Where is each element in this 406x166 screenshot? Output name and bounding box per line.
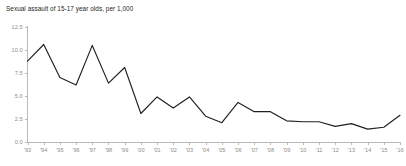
x-tick-label: '03 — [186, 147, 193, 153]
x-tick-label: '04 — [202, 147, 209, 153]
x-tick-label: '01 — [153, 147, 160, 153]
x-tick-label: '06 — [234, 147, 241, 153]
y-tick-label: 10.0 — [12, 47, 23, 53]
x-tick-label: '93 — [24, 147, 31, 153]
y-tick-label: 0.0 — [15, 139, 23, 145]
y-tick-label: 12.5 — [12, 24, 23, 30]
x-tick-label: '05 — [218, 147, 225, 153]
x-axis-ticks: '93'94'95'96'97'98'99'00'01'02'03'04'05'… — [24, 142, 404, 153]
y-tick-label: 7.5 — [15, 70, 23, 76]
x-axis: '93'94'95'96'97'98'99'00'01'02'03'04'05'… — [24, 142, 404, 153]
x-tick-label: '94 — [40, 147, 47, 153]
x-tick-label: '10 — [299, 147, 306, 153]
chart-figure: Sexual assault of 15-17 year olds, per 1… — [0, 0, 406, 166]
line-chart-plot: 12.510.07.55.02.50.0 '93'94'95'96'97'98'… — [0, 0, 406, 166]
x-tick-label: '08 — [267, 147, 274, 153]
data-series-group — [28, 44, 401, 129]
x-tick-label: '07 — [251, 147, 258, 153]
x-tick-label: '96 — [72, 147, 79, 153]
data-series-line — [28, 44, 401, 129]
y-axis-ticks: 12.510.07.55.02.50.0 — [12, 24, 28, 145]
x-tick-label: '16 — [396, 147, 403, 153]
x-tick-label: '95 — [56, 147, 63, 153]
x-tick-label: '97 — [89, 147, 96, 153]
x-tick-label: '09 — [283, 147, 290, 153]
y-tick-label: 5.0 — [15, 93, 23, 99]
x-tick-label: '11 — [316, 147, 323, 153]
y-axis: 12.510.07.55.02.50.0 — [12, 24, 28, 145]
x-tick-label: '02 — [170, 147, 177, 153]
x-tick-label: '14 — [364, 147, 371, 153]
x-tick-label: '99 — [121, 147, 128, 153]
x-tick-label: '98 — [105, 147, 112, 153]
x-tick-label: '00 — [137, 147, 144, 153]
x-tick-label: '13 — [348, 147, 355, 153]
y-tick-label: 2.5 — [15, 116, 23, 122]
x-tick-label: '12 — [332, 147, 339, 153]
x-tick-label: '15 — [380, 147, 387, 153]
